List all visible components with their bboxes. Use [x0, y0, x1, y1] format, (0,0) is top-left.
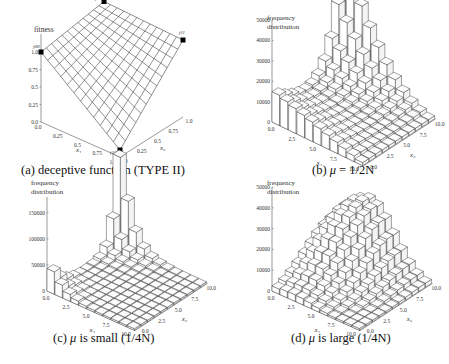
corner-label-f01: f01: [95, 0, 101, 1]
x1-tick-label: 7.5: [103, 322, 110, 328]
x1-tick-label: 0.25: [53, 133, 63, 139]
x2-tick-label: 2.5: [158, 318, 165, 324]
caption-b: (b) μ = 1/2N: [312, 163, 374, 178]
z-tick-label: 0: [267, 288, 270, 294]
z-tick-label: 100000: [29, 236, 46, 242]
x2-tick-label: 0.75: [168, 128, 178, 134]
z-tick-label: 40000: [256, 205, 270, 211]
z-tick-label: 10000: [256, 267, 270, 273]
bars: [272, 192, 431, 330]
x2-tick-label: 7.5: [420, 132, 427, 138]
x1-tick-label: 5.0: [309, 146, 316, 152]
x1-tick-label: 0.0: [35, 124, 42, 130]
x2-tick-label: 5.0: [403, 142, 410, 148]
x2-tick-label: 10.0: [435, 121, 445, 127]
panel-d: frequency distribution 01000020000300004…: [225, 185, 449, 364]
z-tick-label: 50000: [256, 184, 270, 190]
z-tick-label: 20000: [256, 78, 270, 84]
x1-tick-label: 0.0: [268, 295, 275, 301]
x2-axis-label: x₂: [409, 151, 416, 159]
x2-axis-label: x₂: [159, 144, 166, 152]
axes-a: 0.00.250.50.751.00.00.250.50.751.00.00.2…: [28, 34, 192, 165]
x2-tick-label: 10.0: [206, 285, 216, 291]
caption-d: (d) μ is large (1/4N): [291, 331, 391, 346]
z-tick-label: 150000: [29, 210, 46, 216]
x2-axis-label: x₂: [181, 315, 188, 323]
caption-b-prefix: (b): [312, 163, 330, 177]
z-tick-label: 10000: [256, 99, 270, 105]
x2-tick-label: 10.0: [431, 285, 441, 291]
x1-tick-label: 5.0: [308, 313, 315, 319]
z-tick-label: 1.0: [31, 49, 38, 55]
bar3d-plot-d: 010000200003000040000500000.02.55.07.510…: [225, 185, 449, 335]
x1-tick-label: 2.5: [63, 304, 70, 310]
x1-tick-label: 7.5: [328, 322, 335, 328]
z-tick-label: 20000: [256, 246, 270, 252]
caption-d-prefix: (d): [291, 331, 309, 345]
x1-tick-label: 2.5: [288, 304, 295, 310]
bars: [272, 0, 435, 166]
x2-tick-label: 5.0: [175, 307, 182, 313]
bar3d-plot-b: 010000200003000040000500000.02.55.07.510…: [225, 0, 449, 160]
bar3d-plot-c: 0500001000001500000.02.55.07.510.00.02.5…: [0, 185, 225, 335]
caption-c: (c) μ is small (1/4N): [53, 331, 154, 346]
x1-tick-label: 0.0: [43, 295, 50, 301]
panel-b: frequency distribution 01000020000300004…: [225, 0, 449, 185]
x2-tick-label: 0.25: [137, 148, 147, 154]
x1-axis-label: x₁: [75, 146, 82, 154]
x2-axis-label: x₂: [406, 315, 413, 323]
x2-tick-label: 7.5: [416, 296, 423, 302]
z-tick-label: 0.5: [31, 84, 38, 90]
z-tick-label: 0: [42, 288, 45, 294]
x2-tick-label: 2.5: [383, 318, 390, 324]
corner-marker: [102, 0, 107, 4]
x1-tick-label: 0.75: [92, 150, 102, 156]
surface-mesh: [41, 2, 183, 151]
corner-label-f00: f00: [33, 44, 40, 49]
z-tick-label: 0.25: [28, 102, 38, 108]
x2-tick-label: 2.5: [387, 153, 394, 159]
x1-tick-label: 5.0: [83, 313, 90, 319]
corner-marker: [39, 50, 44, 55]
caption-a-text: (a) deceptive function (TYPE II): [21, 163, 185, 177]
caption-c-suffix: is small (1/4N): [76, 331, 154, 345]
x2-tick-label: 7.5: [191, 296, 198, 302]
z-tick-label: 0: [267, 119, 270, 125]
surface-plot-a: 0.00.250.50.751.00.00.250.50.751.00.00.2…: [0, 0, 225, 160]
corner-marker: [181, 38, 186, 43]
x1-tick-label: 7.5: [330, 156, 337, 162]
x2-tick-label: 1.0: [186, 118, 193, 124]
x1-tick-label: 2.5: [288, 136, 295, 142]
corner-label-f11: f11: [179, 30, 185, 35]
caption-d-suffix: is large (1/4N): [315, 331, 391, 345]
panel-c: frequency distribution 05000010000015000…: [0, 185, 225, 364]
caption-c-prefix: (c): [53, 331, 70, 345]
z-tick-label: 0.75: [28, 67, 38, 73]
caption-b-suffix: = 1/2N: [336, 163, 374, 177]
z-tick-label: 50000: [256, 17, 270, 23]
z-tick-label: 30000: [256, 226, 270, 232]
z-tick-label: 40000: [256, 37, 270, 43]
z-tick-label: 30000: [256, 58, 270, 64]
caption-a: (a) deceptive function (TYPE II): [21, 163, 185, 178]
panel-a: fitness 0.00.250.50.751.00.00.250.50.751…: [0, 0, 225, 185]
x2-tick-label: 5.0: [400, 307, 407, 313]
z-tick-label: 50000: [31, 262, 45, 268]
x1-tick-label: 0.0: [268, 126, 275, 132]
